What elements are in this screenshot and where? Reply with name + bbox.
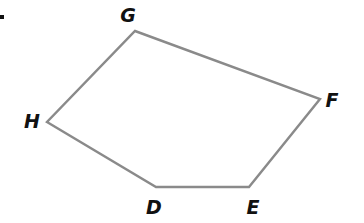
problem-marker — [0, 15, 4, 19]
vertex-labels: G F E D H — [24, 4, 338, 218]
vertex-label-f: F — [326, 89, 339, 111]
vertex-label-g: G — [120, 4, 136, 26]
pentagon-diagram: G F E D H — [0, 0, 364, 223]
vertex-label-d: D — [146, 196, 162, 218]
pentagon-GFEDH — [47, 31, 320, 187]
vertex-label-e: E — [247, 196, 260, 218]
vertex-label-h: H — [24, 110, 40, 132]
